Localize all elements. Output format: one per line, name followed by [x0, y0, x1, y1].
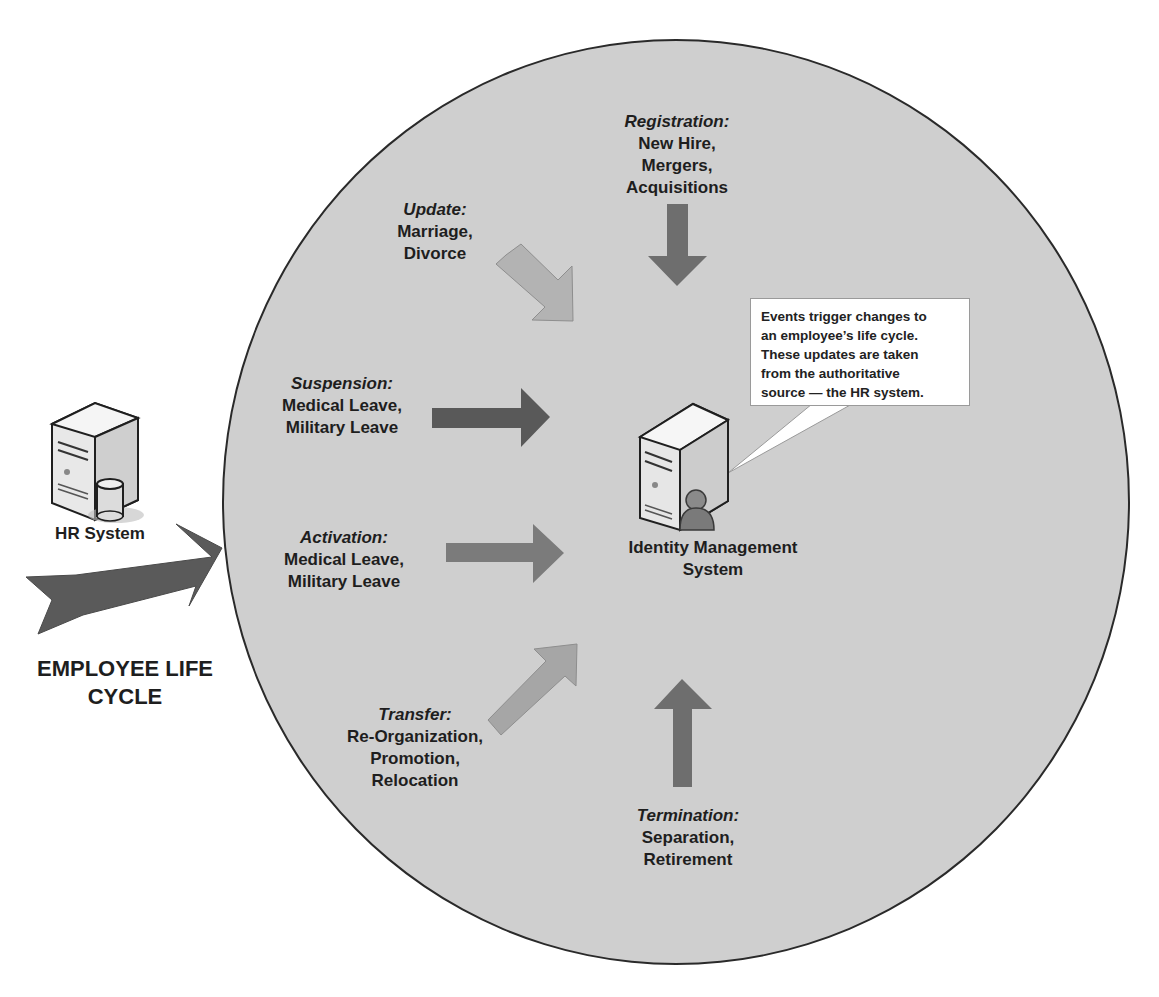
event-category: Activation: [264, 527, 424, 549]
callout-line: Events trigger changes to [761, 307, 959, 326]
event-item: Promotion, [330, 748, 500, 770]
callout-pointer [728, 404, 852, 473]
termination-label: Termination: Separation, Retirement [628, 805, 748, 871]
event-item: Medical Leave, [262, 395, 422, 417]
event-item: Military Leave [262, 417, 422, 439]
event-item: Retirement [628, 849, 748, 871]
diagram-title: EMPLOYEE LIFE CYCLE [20, 655, 230, 711]
arrows-layer [0, 0, 1159, 997]
event-category: Registration: [612, 111, 742, 133]
info-callout: Events trigger changes to an employee’s … [750, 298, 970, 406]
event-category: Transfer: [330, 704, 500, 726]
callout-line: These updates are taken [761, 345, 959, 364]
update-arrow-icon [496, 244, 573, 321]
registration-label: Registration: New Hire, Mergers, Acquisi… [612, 111, 742, 199]
event-item: New Hire, [612, 133, 742, 155]
hr-server-icon [52, 403, 144, 523]
registration-arrow-icon [648, 204, 707, 286]
event-item: Acquisitions [612, 177, 742, 199]
termination-arrow-icon [654, 679, 712, 787]
event-item: Medical Leave, [264, 549, 424, 571]
title-line: EMPLOYEE LIFE [20, 655, 230, 683]
suspension-arrow-icon [432, 388, 550, 447]
event-category: Update: [380, 199, 490, 221]
activation-label: Activation: Medical Leave, Military Leav… [264, 527, 424, 593]
update-label: Update: Marriage, Divorce [380, 199, 490, 265]
identity-server-icon [640, 404, 728, 530]
activation-arrow-icon [446, 524, 564, 583]
transfer-label: Transfer: Re-Organization, Promotion, Re… [330, 704, 500, 792]
identity-label-line: Identity Management [618, 537, 808, 559]
callout-line: an employee’s life cycle. [761, 326, 959, 345]
identity-system-label: Identity Management System [618, 537, 808, 581]
event-item: Mergers, [612, 155, 742, 177]
event-category: Suspension: [262, 373, 422, 395]
hr-system-label: HR System [30, 523, 170, 545]
event-item: Relocation [330, 770, 500, 792]
suspension-label: Suspension: Medical Leave, Military Leav… [262, 373, 422, 439]
callout-line: from the authoritative [761, 364, 959, 383]
event-item: Divorce [380, 243, 490, 265]
callout-line: source — the HR system. [761, 383, 959, 402]
event-category: Termination: [628, 805, 748, 827]
transfer-arrow-icon [488, 644, 577, 735]
identity-label-line: System [618, 559, 808, 581]
event-item: Marriage, [380, 221, 490, 243]
event-item: Separation, [628, 827, 748, 849]
title-line: CYCLE [20, 683, 230, 711]
event-item: Re-Organization, [330, 726, 500, 748]
event-item: Military Leave [264, 571, 424, 593]
